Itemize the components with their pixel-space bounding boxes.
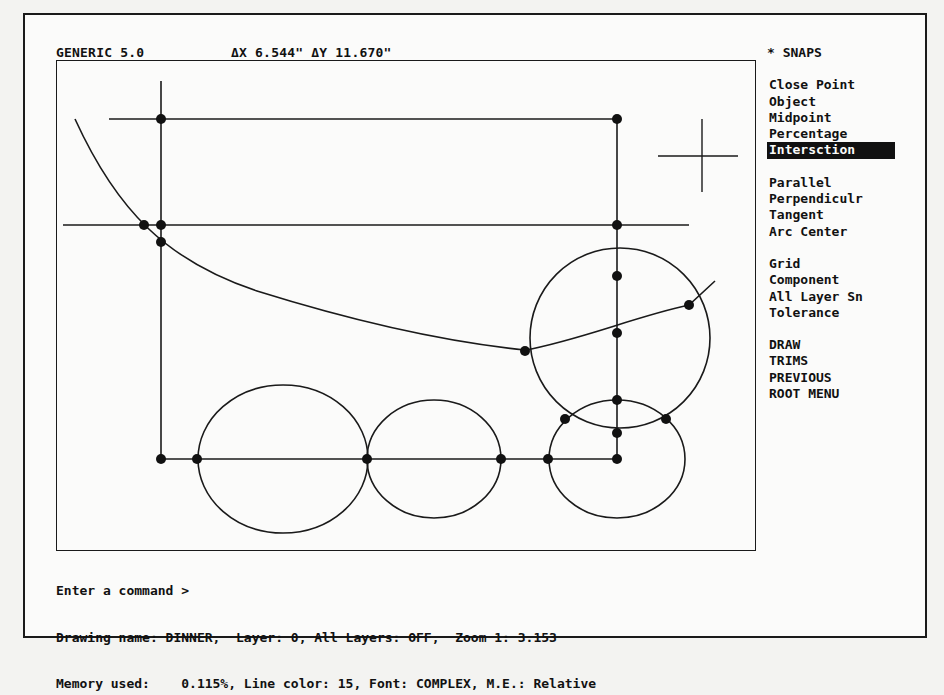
menu-item-draw[interactable]: DRAW [767, 337, 907, 353]
delta-coordinates-readout: ΔX 6.544" ΔY 11.670" [231, 45, 392, 60]
menu-item-arc-center[interactable]: Arc Center [767, 224, 907, 240]
menu-item-grid[interactable]: Grid [767, 256, 907, 272]
menu-item-root-menu[interactable]: ROOT MENU [767, 386, 907, 402]
menu-item-previous[interactable]: PREVIOUS [767, 370, 907, 386]
menu-spacer [767, 159, 907, 175]
spline-curve[interactable] [75, 119, 715, 350]
snaps-menu-title: * SNAPS [767, 45, 907, 61]
menu-item-intersection[interactable]: Intersction [767, 142, 895, 158]
menu-item-all-layer-snap[interactable]: All Layer Sn [767, 289, 907, 305]
status-line-drawing: Drawing name: DINNER, Layer: 0, All Laye… [56, 630, 596, 646]
drawing-canvas[interactable] [56, 60, 756, 551]
cad-drawing[interactable] [57, 61, 757, 552]
menu-item-component[interactable]: Component [767, 272, 907, 288]
menu-item-percentage[interactable]: Percentage [767, 126, 907, 142]
menu-item-trims[interactable]: TRIMS [767, 353, 907, 369]
snap-points [139, 114, 694, 464]
menu-item-object[interactable]: Object [767, 94, 907, 110]
command-prompt[interactable]: Enter a command > [56, 583, 596, 599]
menu-item-parallel[interactable]: Parallel [767, 175, 907, 191]
menu-spacer [767, 321, 907, 337]
menu-item-close-point[interactable]: Close Point [767, 77, 907, 93]
status-line-memory: Memory used: 0.115%, Line color: 15, Fon… [56, 676, 596, 692]
menu-item-tangent[interactable]: Tangent [767, 207, 907, 223]
snaps-menu: * SNAPS Close Point Object Midpoint Perc… [767, 45, 907, 402]
menu-spacer [767, 240, 907, 256]
command-area: Enter a command > Drawing name: DINNER, … [56, 552, 596, 695]
menu-item-tolerance[interactable]: Tolerance [767, 305, 907, 321]
menu-item-midpoint[interactable]: Midpoint [767, 110, 907, 126]
app-title: GENERIC 5.0 [56, 45, 144, 60]
menu-item-perpendicular[interactable]: Perpendiculr [767, 191, 907, 207]
